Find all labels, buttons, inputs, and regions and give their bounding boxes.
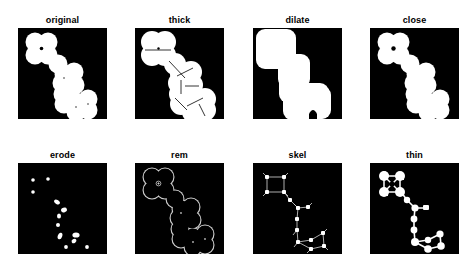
shape-erode [18,163,107,254]
panel-thick: thick [135,15,224,119]
panel-title-thick: thick [135,15,224,26]
shape-skel [253,163,342,254]
panel-canvas-erode [18,163,107,254]
morphology-figure: original [0,0,476,263]
panel-title-skel: skel [253,150,342,161]
panel-canvas-dilate [253,28,342,119]
shape-rem [135,163,224,254]
panel-canvas-original [18,28,107,119]
panel-erode: erode [18,150,107,254]
panel-title-erode: erode [18,150,107,161]
panel-canvas-skel [253,163,342,254]
panel-title-dilate: dilate [253,15,342,26]
panel-canvas-rem [135,163,224,254]
panel-thin: thin [370,150,459,254]
panel-title-thin: thin [370,150,459,161]
panel-title-close: close [370,15,459,26]
panel-canvas-close [370,28,459,119]
shape-thin [370,163,459,254]
panel-skel: skel [253,150,342,254]
panel-title-original: original [18,15,107,26]
panel-canvas-thick [135,28,224,119]
panel-canvas-thin [370,163,459,254]
panel-rem: rem [135,150,224,254]
panel-original: original [18,15,107,119]
panel-dilate: dilate [253,15,342,119]
shape-close [370,28,459,119]
shape-dilate [253,28,342,119]
shape-original [18,28,107,119]
shape-thick [135,28,224,119]
panel-close: close [370,15,459,119]
panel-title-rem: rem [135,150,224,161]
